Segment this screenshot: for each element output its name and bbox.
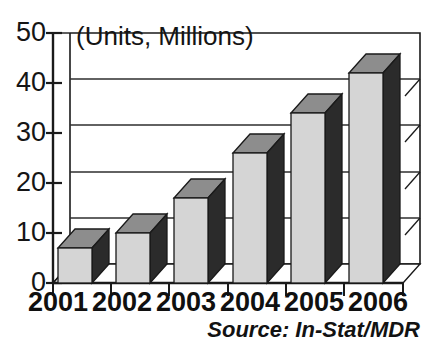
x-tick-label-2003: 2003: [151, 287, 221, 317]
bar-2006: [349, 54, 400, 283]
bar-front-2006: [349, 73, 383, 283]
bar-front-2001: [58, 248, 92, 283]
bar-2003: [174, 179, 225, 283]
bar-2004: [233, 134, 284, 283]
bar-side-2004: [267, 134, 284, 283]
x-tick-label-2001: 2001: [23, 287, 93, 317]
bar-2002: [116, 214, 167, 283]
chart-figure: ▪ 50 40 30 20 10 0: [0, 0, 426, 348]
bar-side-2005: [325, 94, 342, 283]
bar-side-2006: [383, 54, 400, 283]
source-attribution: Source: In-Stat/MDR: [207, 318, 420, 342]
bar-2005: [291, 94, 342, 283]
bar-front-2003: [174, 198, 208, 283]
bar-front-2004: [233, 153, 267, 283]
bar-front-2002: [116, 233, 150, 283]
bar-side-2003: [208, 179, 225, 283]
x-axis-tick-labels: 2001 2002 2003 2004 2005 2006: [0, 287, 426, 321]
x-tick-label-2002: 2002: [87, 287, 157, 317]
x-tick-label-2006: 2006: [343, 287, 413, 317]
bar-front-2005: [291, 113, 325, 283]
x-tick-label-2004: 2004: [215, 287, 285, 317]
x-tick-label-2005: 2005: [279, 287, 349, 317]
units-caption: (Units, Millions): [76, 22, 254, 50]
